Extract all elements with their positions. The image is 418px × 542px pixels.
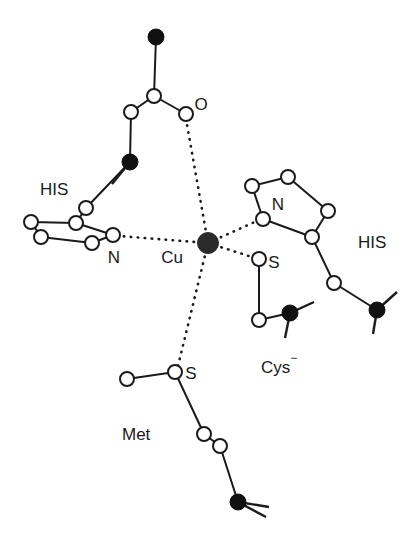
atom-oxygen-carbonyl: [179, 107, 193, 121]
bond-top-terminal-apex: [154, 37, 156, 96]
label-nitrogen-right: N: [272, 195, 284, 214]
atom-nitrogen-hisl: [106, 228, 120, 242]
atom-open-met-cg: [197, 427, 211, 441]
figure-canvas: Cu N N O S S HIS HIS Met Cys−: [0, 0, 418, 542]
atom-open-met-cb: [213, 439, 227, 453]
atom-open-hisl-c3: [24, 215, 38, 229]
atom-open-hisr-c2: [281, 170, 295, 184]
copper-center: [198, 233, 219, 254]
atom-filled-hisr-ca: [369, 302, 385, 318]
atom-open-hisr-c3: [321, 204, 335, 218]
open-atom-group: [24, 89, 341, 453]
atom-filled-hisl-ca: [122, 154, 138, 170]
atom-open-hisl-c1: [79, 201, 93, 215]
coord-bond-cu-oxygen: [186, 119, 208, 243]
bond-met-cb-ca: [220, 446, 238, 502]
atom-sulfur-cys: [252, 252, 266, 266]
label-his-right: HIS: [358, 233, 386, 252]
label-his-left: HIS: [40, 180, 68, 199]
atom-filled-cys-ca: [282, 305, 298, 321]
atom-open-top-apex: [147, 89, 161, 103]
label-cys: Cys−: [261, 351, 297, 377]
atom-open-met-ce: [120, 372, 134, 386]
atom-open-hisl-c4: [34, 230, 48, 244]
atom-filled-top-terminal: [148, 29, 164, 45]
label-sulfur-met: S: [185, 364, 196, 383]
copper-site-diagram: Cu N N O S S HIS HIS Met Cys−: [0, 0, 418, 542]
atom-open-top-left: [124, 105, 138, 119]
residue-label-group: HIS HIS Met Cys−: [40, 180, 386, 444]
label-cys-text: Cys: [261, 358, 290, 377]
atom-open-hisr-chain: [327, 276, 341, 290]
atom-open-hisl-c5: [85, 236, 99, 250]
atom-filled-met-ca: [230, 494, 246, 510]
terminal-stub-group: [112, 162, 397, 517]
label-met: Met: [122, 425, 151, 444]
label-nitrogen-left: N: [108, 248, 120, 267]
dotted-coordination-bond-group: [119, 119, 257, 366]
label-copper: Cu: [161, 248, 183, 267]
atom-open-hisr-c1: [245, 179, 259, 193]
coord-bond-cu-nitrogen-left: [119, 236, 208, 243]
atom-open-cys-cb: [252, 313, 266, 327]
label-sulfur-cys: S: [268, 253, 279, 272]
atom-open-hisl-c2: [69, 216, 83, 230]
atom-open-hisr-c4: [305, 230, 319, 244]
atom-label-group: Cu N N O S S: [108, 95, 284, 383]
atom-nitrogen-hisr: [256, 212, 270, 226]
label-oxygen: O: [194, 95, 207, 114]
atom-sulfur-met: [168, 365, 182, 379]
label-cys-charge: −: [290, 351, 297, 365]
